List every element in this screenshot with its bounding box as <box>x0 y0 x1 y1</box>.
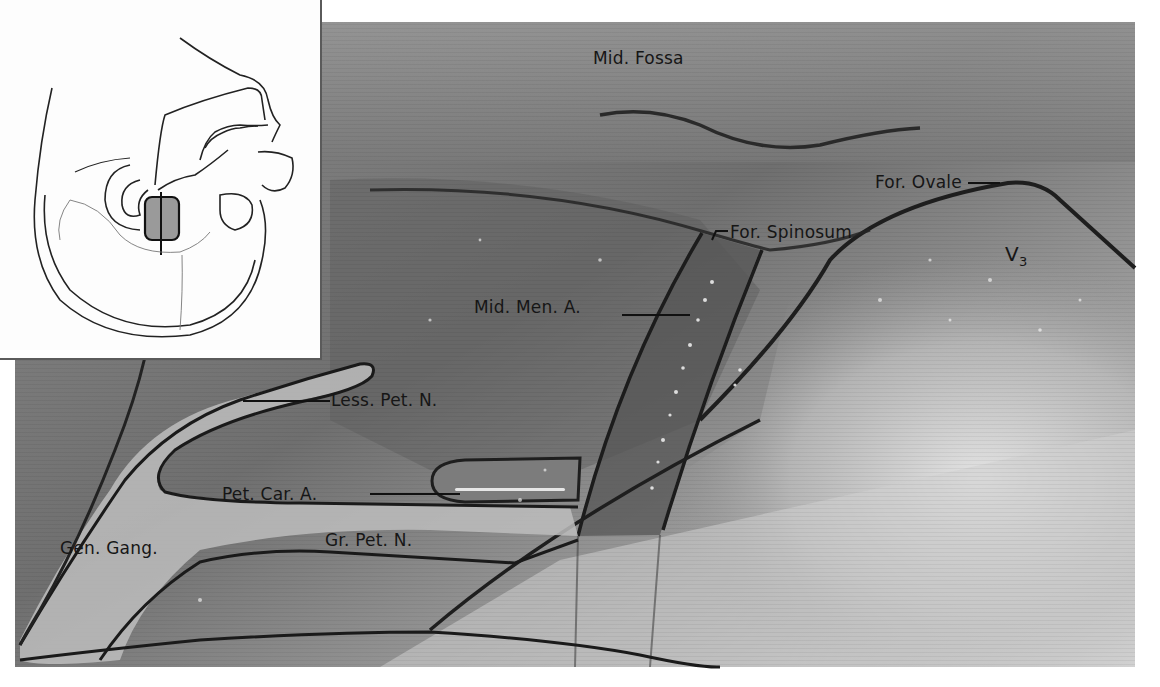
skull-inset-drawing <box>0 0 322 360</box>
label-v3-main: V <box>1005 242 1019 266</box>
skull-base-illustration <box>0 0 320 358</box>
label-petrous-carotid-artery: Pet. Car. A. <box>222 486 317 503</box>
label-lesser-petrosal-nerve: Less. Pet. N. <box>331 392 437 409</box>
label-mid-fossa: Mid. Fossa <box>593 50 684 67</box>
label-greater-petrosal-nerve: Gr. Pet. N. <box>325 532 412 549</box>
label-geniculate-ganglion: Gen. Gang. <box>60 540 158 557</box>
label-foramen-spinosum: For. Spinosum <box>730 224 852 241</box>
label-v3-subscript: 3 <box>1019 254 1027 269</box>
label-v3: V3 <box>1005 244 1027 268</box>
anatomical-figure: Mid. Fossa For. Ovale For. Spinosum V3 M… <box>0 0 1160 687</box>
label-middle-meningeal-artery: Mid. Men. A. <box>474 299 581 316</box>
label-foramen-ovale: For. Ovale <box>875 174 962 191</box>
